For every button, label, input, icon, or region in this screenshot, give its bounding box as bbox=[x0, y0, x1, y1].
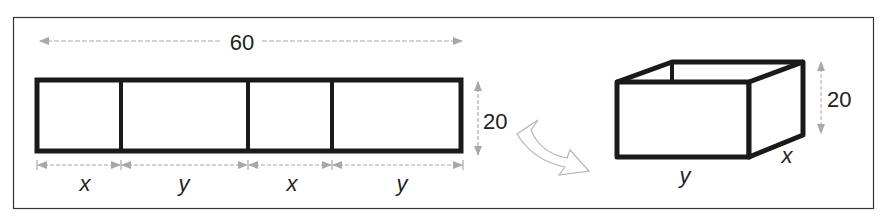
box-length-label: y bbox=[678, 163, 693, 188]
flat-strip bbox=[37, 80, 461, 151]
segment-dimensions bbox=[37, 160, 463, 170]
segment-label-1: x bbox=[79, 171, 92, 196]
segment-label-2: y bbox=[177, 171, 192, 196]
segment-label-3: x bbox=[286, 171, 299, 196]
box-width-label: x bbox=[781, 143, 794, 168]
box-height-label: 20 bbox=[827, 87, 851, 112]
segment-label-4: y bbox=[395, 171, 410, 196]
strip-height-label: 20 bbox=[483, 109, 507, 134]
diagram-canvas: 60 x y x y 20 20 y x bbox=[0, 0, 884, 216]
total-length-label: 60 bbox=[230, 30, 254, 55]
open-box bbox=[617, 62, 803, 157]
fold-arrow-icon bbox=[517, 120, 589, 175]
